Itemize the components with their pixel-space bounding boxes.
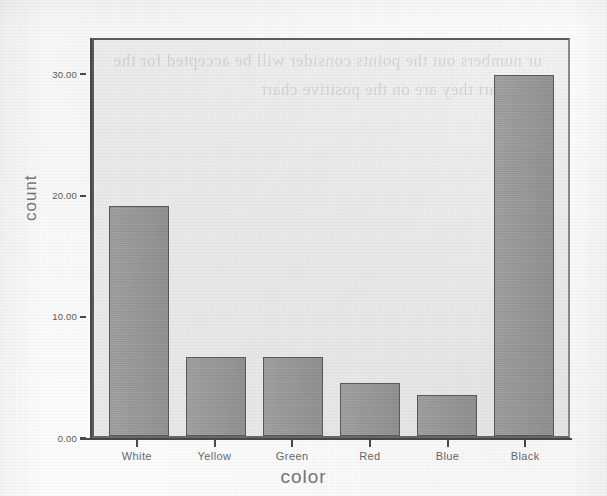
y-tick-30-00: 30.00: [0, 68, 86, 80]
y-tick-mark: [80, 316, 86, 318]
y-tick-label: 10.00: [52, 311, 77, 322]
bar-white[interactable]: [109, 206, 169, 436]
x-tick-mark-black: [524, 440, 526, 447]
y-tick-label: 0.00: [58, 433, 77, 444]
x-tick-label-green: Green: [247, 450, 337, 462]
y-tick-20-00: 20.00: [0, 190, 86, 202]
scanned-chart-page: ur numbers out the points consider will …: [0, 0, 607, 496]
x-axis-line: [80, 438, 572, 440]
bar-red[interactable]: [340, 383, 400, 436]
y-tick-mark: [80, 437, 86, 439]
y-axis-line: [90, 38, 92, 440]
bar-yellow[interactable]: [186, 357, 246, 436]
bar-slot-green: [254, 40, 331, 436]
bar-blue[interactable]: [417, 395, 477, 436]
x-tick-label-red: Red: [325, 450, 415, 462]
x-tick-mark-blue: [447, 440, 449, 447]
x-tick-label-blue: Blue: [403, 450, 493, 462]
y-tick-label: 20.00: [52, 190, 77, 201]
bar-slot-red: [331, 40, 408, 436]
bar-series-count: [94, 40, 568, 436]
x-tick-mark-red: [369, 440, 371, 447]
bar-green[interactable]: [263, 357, 323, 436]
x-tick-mark-yellow: [214, 440, 216, 447]
bar-slot-white: [100, 40, 177, 436]
x-tick-label-black: Black: [480, 450, 570, 462]
x-tick-label-yellow: Yellow: [170, 450, 260, 462]
bar-slot-blue: [408, 40, 485, 436]
y-tick-mark: [80, 195, 86, 197]
x-tick-mark-green: [291, 440, 293, 447]
y-tick-label: 30.00: [52, 69, 77, 80]
x-axis-title: color: [0, 466, 607, 488]
bar-black[interactable]: [494, 75, 554, 436]
y-axis-title: count: [21, 191, 41, 221]
x-tick-label-white: White: [92, 450, 182, 462]
y-tick-mark: [80, 73, 86, 75]
x-tick-mark-white: [136, 440, 138, 447]
bar-slot-yellow: [177, 40, 254, 436]
y-tick-0-00: 0.00: [0, 432, 86, 444]
bar-slot-black: [485, 40, 562, 436]
y-tick-10-00: 10.00: [0, 311, 86, 323]
plot-area: ur numbers out the points consider will …: [92, 38, 570, 438]
